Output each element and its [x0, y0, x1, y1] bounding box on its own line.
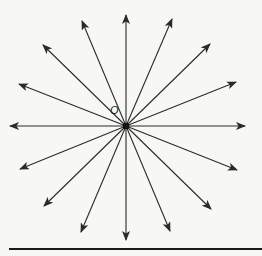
ray-arrow — [126, 44, 210, 126]
ray-arrow — [44, 126, 126, 206]
point-o-dot — [123, 123, 130, 130]
ray-arrow — [82, 21, 126, 126]
ray-arrow — [126, 126, 170, 231]
rays-diagram: O — [0, 0, 262, 256]
ray-arrow — [126, 126, 211, 209]
point-o-label: O — [110, 104, 119, 116]
ray-arrow — [126, 126, 237, 170]
